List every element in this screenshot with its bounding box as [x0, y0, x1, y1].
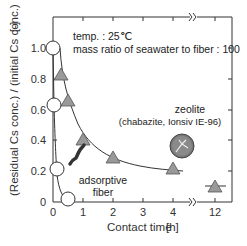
chart: 0 1 2 3 4 12 0 0.2 0.4 0.6 0.8 1.0 Conta…: [0, 0, 247, 246]
y-tick-0.6: 0.6: [31, 104, 46, 116]
y-tick-0.4: 0.4: [31, 134, 46, 146]
circle-marker: [47, 98, 61, 112]
fiber-series: [46, 41, 75, 206]
x-tick-0: 0: [50, 206, 56, 218]
y-tick-0: 0: [40, 196, 46, 208]
temp-annotation: temp. : 25℃: [73, 30, 132, 42]
zeolite-label: zeolite: [175, 103, 206, 115]
triangle-marker: [106, 151, 120, 163]
zeolite-image-icon: [170, 134, 194, 158]
x-tick-4: 4: [170, 206, 176, 218]
x-tick-labels: 0 1 2 3 4 12: [50, 206, 221, 218]
circle-marker: [50, 162, 64, 176]
x-tick-3: 3: [140, 206, 146, 218]
y-tick-0.2: 0.2: [31, 165, 46, 177]
y-tick-0.8: 0.8: [31, 73, 46, 85]
triangle-marker: [166, 162, 180, 174]
zeolite-sublabel: (chabazite, Ionsiv IE-96): [119, 116, 221, 127]
y-tick-1.0: 1.0: [31, 42, 46, 54]
circle-marker: [46, 41, 60, 55]
fiber-image-icon: [70, 145, 84, 164]
fiber-label-1: adsorptive: [79, 174, 128, 186]
x-axis-unit: [h]: [166, 221, 179, 233]
y-axis-unit: [-]: [8, 22, 20, 32]
fiber-label-2: fiber: [93, 186, 114, 198]
circle-marker: [61, 192, 75, 206]
triangle-marker: [61, 94, 75, 106]
ratio-annotation: mass ratio of seawater to fiber : 100: [73, 43, 240, 55]
triangle-marker: [54, 68, 68, 80]
x-tick-1: 1: [80, 206, 86, 218]
x-tick-12: 12: [209, 206, 221, 218]
x-tick-2: 2: [110, 206, 116, 218]
x-axis-title: Contact time: [107, 221, 172, 233]
y-tick-labels: 0 0.2 0.4 0.6 0.8 1.0: [31, 42, 46, 208]
